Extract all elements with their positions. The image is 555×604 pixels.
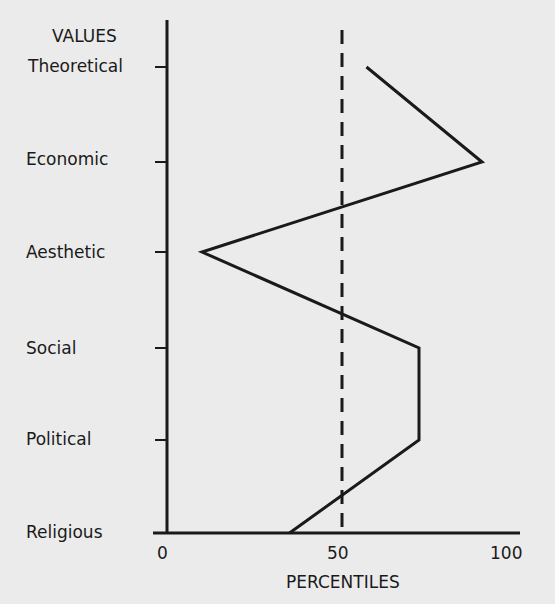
- category-label-religious: Religious: [26, 522, 103, 542]
- y-axis-title: VALUES: [52, 26, 117, 46]
- category-label-theoretical: Theoretical: [28, 56, 123, 76]
- category-label-political: Political: [26, 429, 91, 449]
- y-axis-ticks: [155, 67, 167, 440]
- category-label-social: Social: [26, 338, 76, 358]
- x-tick-50: 50: [327, 543, 349, 563]
- x-tick-0: 0: [157, 543, 168, 563]
- x-tick-100: 100: [490, 543, 522, 563]
- values-profile-line: [202, 67, 482, 533]
- x-axis-title: PERCENTILES: [286, 572, 400, 592]
- category-label-aesthetic: Aesthetic: [26, 242, 105, 262]
- category-label-economic: Economic: [26, 149, 108, 169]
- chart-plot: [0, 0, 555, 604]
